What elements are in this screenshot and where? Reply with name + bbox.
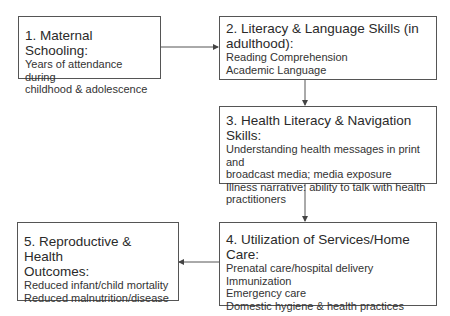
node-line: Emergency care xyxy=(226,287,430,300)
node-line: Domestic hygiene & health practices xyxy=(226,300,430,313)
node-title: adulthood): xyxy=(226,36,430,51)
node-line: Prenatal care/hospital delivery xyxy=(226,262,430,275)
node-line: Reduced malnutrition/disease xyxy=(24,292,172,305)
node-title: Outcomes: xyxy=(24,264,172,279)
node-utilization-services: 4. Utilization of Services/Home Care: Pr… xyxy=(219,222,437,306)
node-line: childhood & adolescence xyxy=(25,83,154,96)
node-title: 2. Literacy & Language Skills (in xyxy=(226,21,430,36)
node-title: 1. Maternal Schooling: xyxy=(25,28,154,58)
node-line: practitioners xyxy=(226,193,430,206)
node-line: Reduced infant/child mortality xyxy=(24,279,172,292)
node-line: Academic Language xyxy=(226,64,430,77)
node-literacy-language-skills: 2. Literacy & Language Skills (in adulth… xyxy=(219,16,437,80)
node-line: Immunization xyxy=(226,275,430,288)
node-line: Reading Comprehension xyxy=(226,51,430,64)
node-title: 4. Utilization of Services/Home Care: xyxy=(226,232,430,262)
node-line: Illness narrative: ability to talk with … xyxy=(226,181,430,194)
node-reproductive-health-outcomes: 5. Reproductive & Health Outcomes: Reduc… xyxy=(17,222,179,301)
node-maternal-schooling: 1. Maternal Schooling: Years of attendan… xyxy=(18,16,161,79)
node-title: 5. Reproductive & Health xyxy=(24,234,172,264)
node-line: broadcast media; media exposure xyxy=(226,168,430,181)
node-title: 3. Health Literacy & Navigation Skills: xyxy=(226,113,430,143)
node-health-literacy-navigation: 3. Health Literacy & Navigation Skills: … xyxy=(219,106,437,184)
node-line: Years of attendance during xyxy=(25,58,154,83)
node-line: Understanding health messages in print a… xyxy=(226,143,430,168)
